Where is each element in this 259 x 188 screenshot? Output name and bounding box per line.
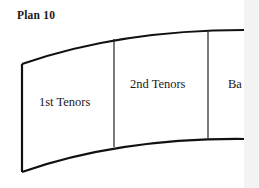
section-label-basses: Ba [228, 77, 244, 92]
section-label-1st-tenors: 1st Tenors [39, 95, 90, 110]
bottom-arc [22, 139, 244, 172]
top-arc [22, 30, 244, 64]
section-label-2nd-tenors: 2nd Tenors [130, 77, 186, 92]
seating-plan-diagram [0, 0, 244, 188]
page-edge [244, 0, 259, 188]
